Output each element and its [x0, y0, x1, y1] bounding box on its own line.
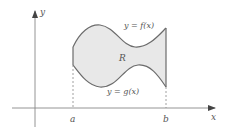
upper-curve-label: y = f(x) — [123, 21, 154, 30]
region-label: R — [118, 53, 126, 63]
tick-label-a: a — [70, 114, 75, 124]
y-axis-label: y — [39, 7, 46, 17]
lower-curve-label: y = g(x) — [106, 87, 139, 96]
tick-label-b: b — [163, 114, 169, 124]
x-axis-label: x — [211, 112, 216, 122]
area-between-curves-diagram: y x y = f(x) y = g(x) R a b — [0, 0, 227, 131]
